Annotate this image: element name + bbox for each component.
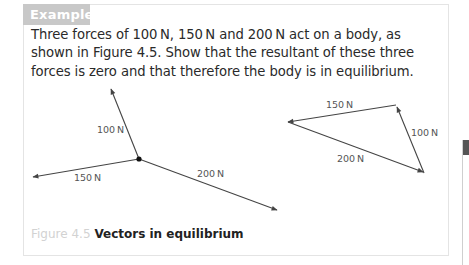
adjacent-panel-edge	[462, 140, 468, 265]
force-diagram-left: 100 N 150 N 200 N	[33, 89, 277, 210]
side-150n-label: 150 N	[326, 99, 353, 110]
force-200n-arrow	[139, 159, 277, 210]
side-100n-arrow	[397, 107, 424, 173]
figure-number: Figure 4.5	[31, 227, 91, 241]
body-point	[136, 156, 141, 161]
force-100n-label: 100 N	[97, 124, 124, 135]
vector-triangle-right: 150 N 100 N 200 N	[288, 99, 438, 173]
adjacent-panel-header	[463, 140, 469, 155]
force-150n-label: 150 N	[74, 172, 101, 183]
side-200n-arrow	[288, 122, 423, 172]
side-200n-label: 200 N	[337, 153, 364, 164]
figure-title: Vectors in equilibrium	[94, 227, 243, 241]
force-200n-label: 200 N	[197, 168, 224, 179]
figure-caption: Figure 4.5 Vectors in equilibrium	[31, 227, 244, 241]
side-100n-label: 100 N	[411, 127, 438, 138]
